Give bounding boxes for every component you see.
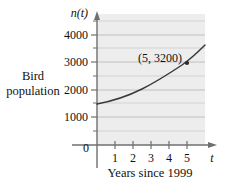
x-tick-label-1: 1 bbox=[112, 151, 118, 165]
x-tick-label-5: 5 bbox=[184, 151, 190, 165]
y-tick-label-3000: 3000 bbox=[64, 55, 88, 69]
y-axis-variable-name: n(t) bbox=[71, 6, 88, 20]
x-axis-arrow bbox=[208, 142, 217, 148]
x-tick-label-3: 3 bbox=[148, 151, 154, 165]
bird-population-chart: 4000 3000 2000 1000 0 1 2 3 4 5 n(t) t B… bbox=[0, 0, 225, 192]
x-axis-caption: Years since 1999 bbox=[108, 166, 193, 180]
y-tick-label-0: 0 bbox=[83, 141, 89, 155]
y-axis-caption-line2: population bbox=[6, 84, 60, 98]
x-axis-variable-name: t bbox=[210, 151, 214, 165]
y-tick-label-1000: 1000 bbox=[64, 110, 88, 124]
bird-population-figure: 4000 3000 2000 1000 0 1 2 3 4 5 n(t) t B… bbox=[0, 0, 225, 192]
plot-background bbox=[97, 14, 205, 145]
x-tick-label-2: 2 bbox=[130, 151, 136, 165]
y-axis-caption-line1: Bird bbox=[22, 69, 45, 83]
annotation-label: (5, 3200) bbox=[138, 51, 182, 65]
y-tick-label-4000: 4000 bbox=[64, 28, 88, 42]
x-tick-label-4: 4 bbox=[166, 151, 172, 165]
annotation-point-marker bbox=[185, 61, 189, 65]
y-tick-label-2000: 2000 bbox=[64, 83, 88, 97]
